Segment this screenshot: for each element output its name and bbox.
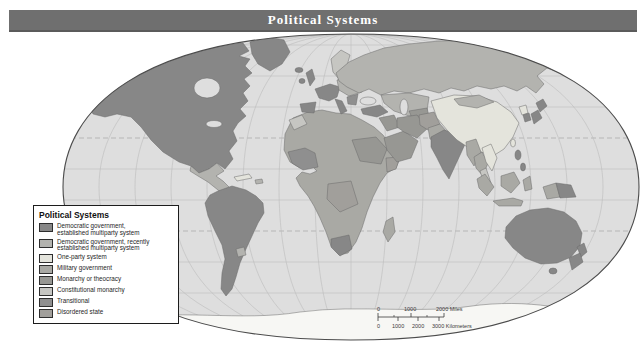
scale-ruler (377, 312, 447, 322)
scale-label: 1000 (392, 323, 404, 329)
scale-label: 3000 Kilometers (432, 323, 472, 329)
legend: Political Systems Democratic government,… (33, 205, 179, 324)
black-sea (360, 97, 376, 105)
legend-swatch (39, 223, 53, 232)
legend-item-label: Monarchy or theocracy (57, 276, 121, 283)
arctic-island (567, 56, 573, 59)
legend-item: Transitional (39, 298, 174, 307)
hudson-bay (194, 78, 220, 98)
region-philippines-north (515, 150, 521, 160)
legend-swatch (39, 239, 53, 248)
legend-item-label: Democratic government, recently establis… (57, 239, 149, 253)
map-title-bar: Political Systems (9, 10, 637, 32)
map-title: Political Systems (268, 12, 379, 28)
region-iceland (295, 68, 303, 73)
legend-item: Military government (39, 265, 174, 274)
legend-swatch (39, 287, 53, 296)
region-iberia (300, 102, 316, 113)
legend-swatch (39, 265, 53, 274)
scale-label: 2000 (412, 323, 424, 329)
legend-title: Political Systems (39, 210, 174, 220)
region-philippines-south (521, 163, 526, 171)
region-paraguay (236, 247, 246, 257)
legend-item: Democratic government, established multi… (39, 223, 174, 237)
region-taiwan (511, 139, 516, 147)
scale-label: 0 (377, 323, 380, 329)
scale-km-labels: 0 1000 2000 3000 Kilometers (377, 323, 507, 330)
legend-item-label: Disordered state (57, 309, 103, 316)
legend-item: Constitutional monarchy (39, 287, 174, 296)
great-lakes (206, 121, 222, 128)
legend-item: Monarchy or theocracy (39, 276, 174, 285)
legend-item-label: Democratic government, established multi… (57, 223, 140, 237)
scale-bar: 0 1000 2000 Miles 0 1000 2000 3000 Kilom… (377, 306, 507, 334)
region-ireland (299, 79, 305, 84)
region-hispaniola (255, 179, 263, 184)
legend-item: One-party system (39, 254, 174, 263)
legend-item-label: Constitutional monarchy (57, 287, 125, 294)
region-tasmania (549, 268, 557, 274)
legend-swatch (39, 298, 53, 307)
arctic-island (555, 49, 561, 52)
legend-swatch (39, 254, 53, 263)
legend-swatch (39, 276, 53, 285)
caspian-sea (400, 99, 408, 115)
page: Political Systems (0, 0, 641, 343)
legend-item-label: Military government (57, 265, 112, 272)
legend-item-label: Transitional (57, 298, 89, 305)
legend-swatch (39, 309, 53, 318)
legend-item: Disordered state (39, 309, 174, 318)
legend-item: Democratic government, recently establis… (39, 239, 174, 253)
legend-item-label: One-party system (57, 254, 107, 261)
